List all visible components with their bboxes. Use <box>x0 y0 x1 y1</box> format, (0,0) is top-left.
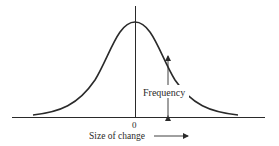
frequency-label: Frequency <box>143 87 185 98</box>
bell-curve-diagram: Frequency 0 Size of change <box>0 0 279 146</box>
origin-label: 0 <box>132 120 137 130</box>
x-axis-label: Size of change <box>89 131 145 141</box>
